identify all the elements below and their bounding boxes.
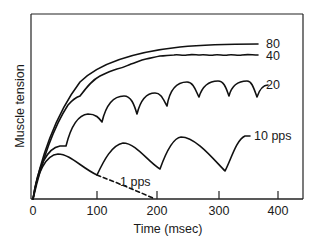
x-tick-200: 200 bbox=[147, 204, 168, 218]
label-1pps: 1 pps bbox=[120, 175, 151, 189]
y-axis-label: Muscle tension bbox=[13, 64, 27, 147]
x-tick-300: 300 bbox=[209, 204, 230, 218]
x-tick-100: 100 bbox=[87, 204, 108, 218]
x-tick-0: 0 bbox=[30, 204, 37, 218]
x-tick-labels: 0 100 200 300 400 bbox=[30, 204, 289, 218]
x-tick-400: 400 bbox=[268, 204, 289, 218]
tension-chart: 0 100 200 300 400 Time (msec) Muscle ten… bbox=[0, 0, 318, 243]
x-ticks bbox=[97, 191, 278, 199]
x-axis-label: Time (msec) bbox=[134, 222, 203, 236]
label-40: 40 bbox=[266, 49, 280, 63]
label-10pps: 10 pps bbox=[254, 129, 292, 143]
label-20: 20 bbox=[266, 78, 280, 92]
